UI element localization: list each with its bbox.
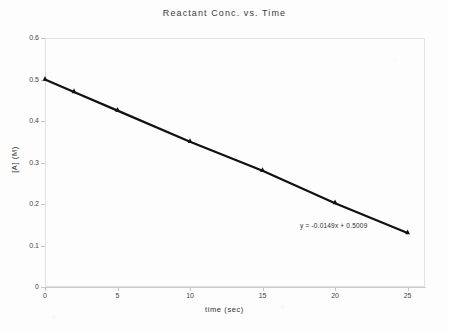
y-tick-label: 0.6 bbox=[0, 34, 39, 41]
x-tick-mark bbox=[335, 287, 336, 291]
y-tick-mark bbox=[41, 80, 45, 81]
y-tick-label: 0.5 bbox=[0, 76, 39, 83]
x-tick-mark bbox=[408, 287, 409, 291]
chart-title: Reactant Conc. vs. Time bbox=[0, 8, 449, 18]
y-tick-mark bbox=[41, 121, 45, 122]
y-tick-label: 0.3 bbox=[0, 159, 39, 166]
x-axis-title: time (sec) bbox=[0, 305, 449, 314]
x-tick-label: 25 bbox=[393, 292, 423, 299]
chart-page: Reactant Conc. vs. Time 00.10.20.30.40.5… bbox=[0, 0, 449, 330]
y-tick-label: 0.4 bbox=[0, 117, 39, 124]
y-axis-title: [A] (M) bbox=[10, 130, 19, 190]
plot-area bbox=[45, 38, 425, 287]
y-tick-label: 0.2 bbox=[0, 200, 39, 207]
x-tick-mark bbox=[190, 287, 191, 291]
x-tick-label: 10 bbox=[175, 292, 205, 299]
x-tick-label: 0 bbox=[30, 292, 60, 299]
trendline-equation-label: y = -0.0149x + 0.5009 bbox=[300, 222, 367, 229]
x-tick-mark bbox=[45, 287, 46, 291]
y-tick-label: 0 bbox=[0, 283, 39, 290]
y-tick-mark bbox=[41, 204, 45, 205]
x-tick-mark bbox=[263, 287, 264, 291]
x-tick-mark bbox=[118, 287, 119, 291]
y-tick-mark bbox=[41, 38, 45, 39]
x-tick-label: 5 bbox=[103, 292, 133, 299]
y-tick-mark bbox=[41, 163, 45, 164]
x-axis-line bbox=[45, 287, 426, 288]
x-tick-label: 15 bbox=[248, 292, 278, 299]
x-tick-label: 20 bbox=[320, 292, 350, 299]
y-tick-mark bbox=[41, 246, 45, 247]
y-tick-label: 0.1 bbox=[0, 242, 39, 249]
